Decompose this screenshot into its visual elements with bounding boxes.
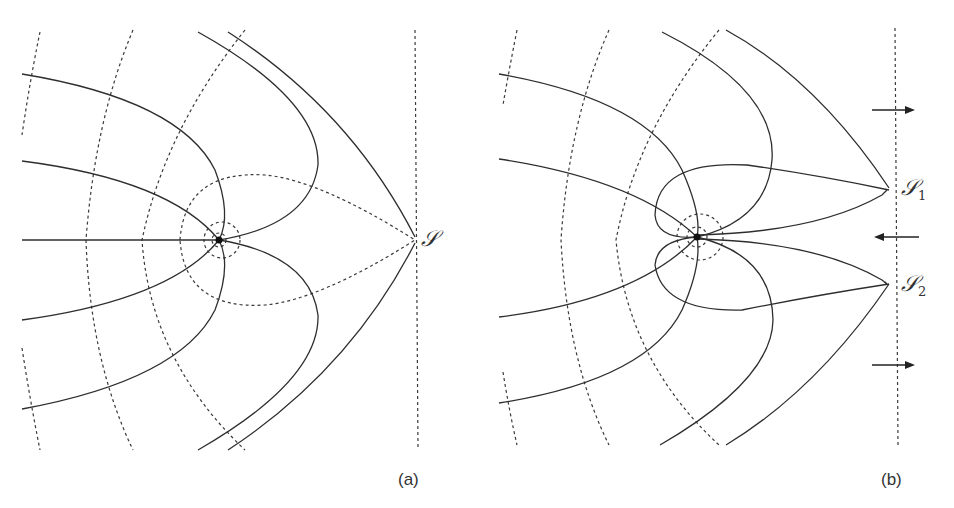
field-line (699, 239, 886, 284)
panel-caption-b: (b) (881, 470, 902, 490)
field-line (699, 191, 886, 235)
source-point (216, 237, 223, 244)
panel-a: 𝒮 (a) (0, 0, 477, 508)
field-line (22, 161, 219, 240)
dashed-contour (503, 372, 517, 445)
field-line (228, 32, 415, 237)
arrow-left-icon-head (874, 233, 884, 241)
field-line (499, 74, 698, 237)
field-line (22, 74, 225, 240)
source-point (694, 234, 701, 241)
panel-a-diagram (0, 0, 477, 508)
field-line (499, 237, 697, 317)
field-line (228, 243, 415, 450)
field-line (22, 240, 225, 409)
panel-caption-a: (a) (398, 470, 419, 490)
field-line (198, 240, 318, 450)
field-line (198, 32, 318, 240)
panel-b-diagram (477, 0, 954, 508)
dashed-contour (616, 30, 719, 445)
singular-point-label-2: 𝒮2 (901, 271, 926, 299)
dashed-contour (22, 348, 40, 450)
label-s2-symbol: 𝒮 (901, 271, 918, 296)
field-line (662, 32, 772, 237)
label-s2-subscript: 2 (918, 284, 926, 299)
field-line (22, 240, 219, 320)
arrow-right-icon-head (905, 361, 915, 369)
field-line (655, 237, 889, 310)
singular-point-label: 𝒮 (421, 226, 438, 251)
field-line (655, 165, 889, 238)
panel-b: 𝒮1 𝒮2 (b) (477, 0, 954, 508)
singular-point-label-1: 𝒮1 (901, 175, 926, 203)
field-line (499, 159, 697, 237)
arrow-right-icon-head (905, 106, 915, 114)
dashed-boundary (415, 30, 418, 448)
dashed-contour (22, 32, 40, 135)
label-s1-symbol: 𝒮 (901, 175, 918, 200)
field-line (726, 30, 889, 188)
dashed-contour (503, 30, 517, 105)
label-s1-subscript: 1 (918, 188, 926, 203)
field-line (660, 237, 773, 445)
